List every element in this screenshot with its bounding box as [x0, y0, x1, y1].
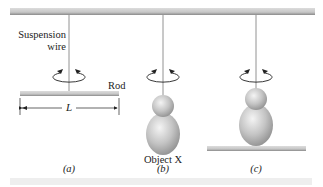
ceiling-bar [10, 8, 315, 15]
wire-label: wire [47, 41, 66, 52]
rod-a [20, 91, 119, 96]
caption-b: (b) [157, 163, 170, 175]
object-x-b [146, 95, 180, 155]
footer-band [10, 178, 312, 185]
rod-label: Rod [108, 80, 126, 91]
caption-c: (c) [250, 163, 262, 175]
object-x-c [239, 88, 273, 146]
caption-a: (a) [63, 163, 76, 175]
rod-c [207, 146, 306, 151]
suspension-label: Suspension [18, 29, 67, 40]
length-label: L [65, 101, 72, 113]
torsion-pendulum-diagram: Suspension wire Rod L Object X (a) (b) (… [0, 0, 323, 187]
